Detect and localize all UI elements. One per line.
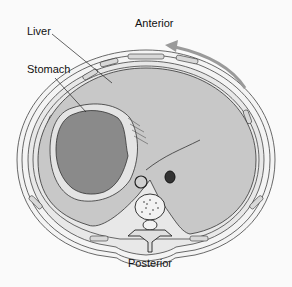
- diagram-canvas: Liver Stomach Anterior Posterior: [0, 0, 292, 287]
- cross-section-figure: [0, 0, 292, 287]
- stomach: [56, 111, 128, 195]
- label-liver: Liver: [27, 25, 51, 37]
- arrow-head-icon: [165, 40, 178, 52]
- label-posterior: Posterior: [128, 257, 172, 269]
- label-stomach: Stomach: [27, 63, 70, 75]
- label-anterior: Anterior: [135, 17, 174, 29]
- aorta: [135, 176, 147, 188]
- vena-cava: [165, 171, 175, 183]
